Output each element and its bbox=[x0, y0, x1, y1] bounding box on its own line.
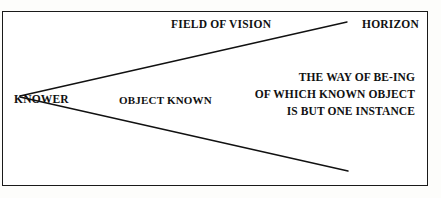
annotation-line-1: THE WAY OF BE-ING bbox=[195, 69, 415, 86]
label-field-of-vision: FIELD OF VISION bbox=[171, 19, 271, 31]
label-knower: KNOWER bbox=[14, 94, 69, 106]
way-of-being-annotation: THE WAY OF BE-ING OF WHICH KNOWN OBJECT … bbox=[195, 69, 415, 120]
label-horizon: HORIZON bbox=[362, 19, 419, 31]
diagram-page: FIELD OF VISION HORIZON KNOWER OBJECT KN… bbox=[0, 0, 441, 198]
annotation-line-3: IS BUT ONE INSTANCE bbox=[195, 103, 415, 120]
annotation-line-2: OF WHICH KNOWN OBJECT bbox=[195, 86, 415, 103]
